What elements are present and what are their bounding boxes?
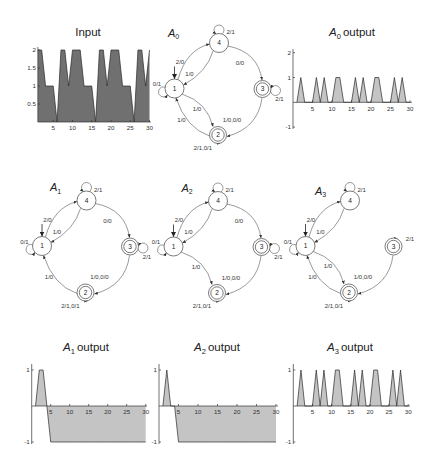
state-node-3: 3	[253, 239, 270, 256]
transition-label: 1/0	[324, 263, 333, 269]
a3-diagram-label: A3	[314, 185, 326, 199]
transition-label: 0/0	[103, 218, 112, 224]
y-tick-label: 1	[154, 366, 158, 373]
transition-edge	[227, 204, 261, 238]
label-subscript: 0	[175, 33, 179, 40]
input-plot: 0.511.5251015202530	[27, 46, 153, 131]
transition-label: 0/0	[235, 218, 244, 224]
x-tick-label: 30	[142, 408, 149, 415]
state-label: 3	[260, 243, 264, 250]
self-loop-edge	[214, 25, 224, 34]
transition-label: 2/0	[175, 217, 184, 223]
transition-label: 0/0	[236, 60, 245, 66]
state-node-2: 2	[77, 284, 94, 301]
title-variable: A	[193, 341, 202, 353]
a2-output-plot: -1151015202530	[151, 364, 280, 445]
transition-label: 1/0	[185, 71, 194, 77]
x-tick-label: 10	[328, 408, 335, 415]
x-tick-label: 20	[366, 408, 373, 415]
transition-label: 2/1	[94, 187, 103, 193]
state-label: 1	[40, 242, 44, 249]
y-tick-label: 2	[32, 46, 36, 53]
label-subscript: 2	[189, 188, 193, 195]
self-loop-edge	[270, 244, 280, 254]
self-loop-edge	[82, 182, 92, 191]
y-tick-label: 0.5	[27, 100, 36, 107]
state-label: 2	[215, 289, 219, 296]
transition-edge	[315, 209, 345, 243]
label-variable: A	[167, 27, 175, 39]
transition-label: 0/1	[153, 81, 162, 87]
x-tick-label: 15	[214, 408, 221, 415]
state-node-2: 2	[210, 127, 227, 144]
transition-label: 2/1,0/1	[193, 303, 212, 309]
x-tick-label: 30	[407, 105, 414, 112]
state-node-3: 3	[122, 238, 139, 255]
title-subscript: 2	[202, 347, 206, 356]
label-subscript: 3	[322, 191, 326, 198]
state-label: 3	[392, 243, 396, 250]
transition-edge	[96, 204, 130, 238]
transition-label: 1/0	[316, 229, 325, 235]
transition-label: 2/1	[274, 254, 283, 260]
transition-label: 2/0	[307, 217, 316, 223]
a3-output-plot: -1151015202530	[286, 364, 412, 445]
x-tick-label: 10	[66, 408, 73, 415]
transition-label: 1/0	[45, 274, 54, 280]
state-node-1: 1	[296, 224, 315, 256]
x-tick-label: 5	[49, 408, 53, 415]
transition-label: 1/0	[184, 229, 193, 235]
title-text: output	[77, 341, 110, 353]
a1-state-machine: 0/12/01/02/10/02/11/01/0,0/02/1,0/11234	[20, 182, 152, 308]
title-subscript: 3	[335, 347, 339, 356]
state-label: 1	[172, 243, 176, 250]
x-tick-label: 10	[195, 408, 202, 415]
x-tick-label: 25	[123, 408, 130, 415]
transition-label: 2/1	[227, 29, 236, 35]
x-tick-label: 25	[127, 124, 134, 131]
y-tick-label: 1	[26, 366, 30, 373]
state-node-4: 4	[341, 191, 360, 210]
x-tick-label: 5	[52, 124, 56, 131]
label-variable: A	[314, 185, 322, 197]
state-node-2: 2	[209, 285, 226, 302]
state-node-4: 4	[210, 34, 229, 53]
input-plot-panel: Input 0.511.5251015202530	[27, 26, 153, 131]
a3-diagram-panel: A3 0/12/01/02/12/11/01/01/0,0/02/1,0/112…	[284, 182, 415, 308]
transition-label: 0/1	[152, 239, 161, 245]
self-loop-edge	[345, 182, 355, 191]
state-node-4: 4	[77, 191, 96, 210]
a0-output-plot-panel: A0output -11251015202530	[285, 26, 414, 130]
title-text: output	[343, 26, 376, 38]
state-node-2: 2	[341, 284, 358, 301]
transition-label: 1/0	[308, 274, 317, 280]
a3-output-title: A3output	[326, 341, 374, 356]
state-label: 3	[128, 243, 132, 250]
y-tick-label: 1	[288, 74, 292, 81]
x-tick-label: 5	[311, 105, 315, 112]
title-variable: A	[326, 341, 335, 353]
state-node-3: 3	[254, 81, 271, 98]
a2-output-title: A2output	[193, 341, 241, 356]
y-tick-label: 1	[288, 366, 292, 373]
transition-label: 2/1	[406, 236, 415, 242]
self-loop-edge	[213, 183, 223, 192]
label-subscript: 1	[57, 188, 61, 195]
transition-label: 2/1	[358, 187, 367, 193]
x-tick-label: 15	[88, 124, 95, 131]
state-label: 2	[347, 289, 351, 296]
x-tick-label: 5	[177, 408, 181, 415]
y-tick-label: -1	[286, 438, 292, 445]
x-tick-label: 20	[234, 408, 241, 415]
x-tick-label: 30	[146, 124, 153, 131]
transition-label: 2/0	[176, 59, 185, 65]
transition-label: 1/0,0/0	[223, 117, 242, 123]
state-node-1: 1	[165, 67, 184, 99]
state-label: 4	[85, 197, 89, 204]
x-tick-label: 10	[69, 124, 76, 131]
a1-diagram-label: A1	[49, 181, 61, 195]
a0-output-title: A0output	[328, 26, 376, 41]
a3-output-plot-panel: A3output -1151015202530	[286, 341, 412, 445]
transition-label: 2/1,0/1	[325, 303, 344, 309]
title-variable: A	[328, 26, 337, 38]
